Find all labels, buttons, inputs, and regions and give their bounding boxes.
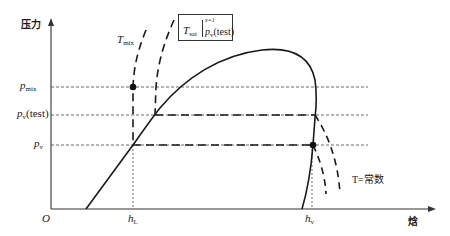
evaluated-pressure: pv(test) (205, 26, 234, 39)
x-axis-label: 焓 (408, 217, 418, 227)
hv-label: hv (305, 213, 314, 226)
t-sat-symbol: Tsat (183, 24, 197, 38)
saturation-temperature-box: Tsat x=1 pv(test) (178, 14, 233, 41)
t-const-isotherm-outer (315, 115, 340, 194)
y-axis-label: 压力 (21, 20, 41, 30)
t-const-label: T=常数 (352, 175, 384, 185)
t-const-isotherm-inner (313, 145, 326, 194)
ph-diagram: 压力 焓 O pmix pv(test) pv hL hv Tmix T=常数 … (0, 0, 450, 236)
mix-state-point (130, 84, 137, 91)
hL-label: hL (128, 213, 138, 226)
p-mix-label: pmix (20, 80, 36, 93)
pv-label: pv (34, 138, 43, 151)
saturation-dome (86, 49, 316, 209)
t-mix-label: Tmix (117, 34, 134, 47)
vapor-state-point (310, 142, 317, 149)
evaluation-bar (202, 20, 203, 37)
quality-superscript: x=1 (205, 17, 215, 23)
t-sat-isotherm (155, 20, 174, 115)
origin-label: O (42, 213, 50, 224)
pv-test-label: pv(test) (17, 108, 49, 121)
